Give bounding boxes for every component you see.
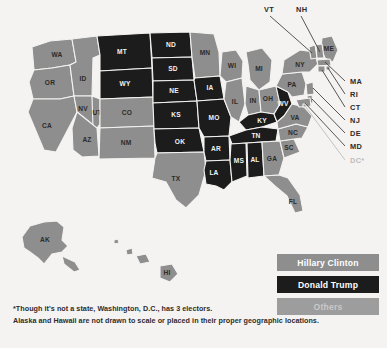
state-label-PA: PA [287, 81, 296, 88]
state-label-AZ: AZ [82, 136, 91, 143]
state-label-IL: IL [232, 98, 238, 105]
state-MA[interactable] [317, 59, 331, 66]
state-label-ME: ME [324, 45, 335, 52]
leader-line-VT [270, 16, 312, 53]
state-label-LA: LA [209, 169, 218, 176]
legend-item-clinton[interactable]: Hillary Clinton [277, 254, 379, 271]
callout-label-CT: CT [350, 103, 361, 112]
footnote: *Though it's not a state, Washington, D.… [13, 303, 313, 327]
state-label-ID: ID [80, 75, 87, 82]
state-label-HI: HI [164, 269, 171, 276]
state-HI-island-3[interactable] [136, 254, 150, 264]
state-label-IA: IA [207, 84, 214, 91]
state-label-IN: IN [250, 97, 257, 104]
state-label-AR: AR [211, 145, 221, 152]
state-label-OH: OH [263, 95, 273, 102]
legend-label-others: Others [314, 302, 343, 312]
legend-label-trump: Donald Trump [298, 280, 358, 290]
state-label-WA: WA [51, 51, 62, 58]
state-label-NY: NY [295, 61, 305, 68]
state-label-MT: MT [117, 48, 127, 55]
state-label-GA: GA [267, 155, 277, 162]
callout-label-NJ: NJ [350, 116, 360, 125]
footnote-line-2: Alaska and Hawaii are not drawn to scale… [13, 315, 313, 327]
state-label-CA: CA [42, 122, 52, 129]
state-FL[interactable] [264, 175, 303, 213]
electoral-map-figure: WA OR ID MT WY CA NV UT AZ CO NM ND SD N… [0, 0, 387, 348]
leader-line-NJ [313, 88, 345, 120]
state-label-NV: NV [78, 105, 88, 112]
state-label-TN: TN [251, 132, 260, 139]
state-label-AL: AL [250, 156, 259, 163]
state-label-MN: MN [200, 49, 211, 56]
state-label-KS: KS [171, 111, 181, 118]
state-label-OK: OK [175, 138, 185, 145]
state-label-NE: NE [169, 87, 179, 94]
state-label-TX: TX [172, 175, 181, 182]
callout-label-NH: NH [296, 5, 307, 14]
state-label-OR: OR [45, 79, 55, 86]
state-CT[interactable] [318, 66, 325, 72]
state-label-WY: WY [119, 80, 130, 87]
state-label-CO: CO [122, 109, 132, 116]
state-label-SD: SD [168, 65, 178, 72]
state-NJ[interactable] [306, 82, 314, 95]
state-label-MO: MO [208, 114, 219, 121]
state-label-NM: NM [121, 139, 132, 146]
state-label-WI: WI [228, 62, 236, 69]
state-label-ND: ND [166, 41, 176, 48]
legend-label-clinton: Hillary Clinton [297, 258, 358, 268]
state-label-SC: SC [284, 144, 294, 151]
legend-item-trump[interactable]: Donald Trump [277, 276, 379, 293]
footnote-line-1: *Though it's not a state, Washington, D.… [13, 303, 313, 315]
state-HI-island-1[interactable] [114, 239, 119, 244]
state-label-MS: MS [234, 157, 245, 164]
callout-label-MD: MD [350, 142, 362, 151]
state-label-VA: VA [290, 114, 299, 121]
state-label-MI: MI [255, 65, 263, 72]
state-CA[interactable] [28, 96, 77, 152]
state-label-AK: AK [40, 236, 50, 243]
state-label-FL: FL [289, 198, 297, 205]
state-label-KY: KY [257, 117, 267, 124]
callout-label-MA: MA [350, 77, 362, 86]
state-ID[interactable] [70, 36, 100, 96]
callout-label-RI: RI [350, 90, 358, 99]
callout-label-DC: DC* [350, 156, 364, 165]
state-HI-island-2[interactable] [126, 248, 133, 255]
leader-line-MD [305, 103, 345, 146]
callout-label-DE: DE [350, 129, 361, 138]
state-label-NC: NC [288, 129, 298, 136]
state-label-WV: WV [277, 100, 288, 107]
state-AK-tail[interactable] [62, 256, 80, 272]
leader-line-RI [328, 68, 345, 94]
callout-label-VT: VT [264, 5, 274, 14]
